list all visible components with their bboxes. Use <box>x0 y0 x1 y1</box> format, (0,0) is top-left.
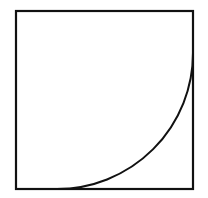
quarter-circle-arc <box>57 53 193 189</box>
geometry-diagram <box>0 0 208 198</box>
outer-square <box>16 11 193 189</box>
figure-canvas: Square with inscribed quarter arc <box>0 0 208 198</box>
